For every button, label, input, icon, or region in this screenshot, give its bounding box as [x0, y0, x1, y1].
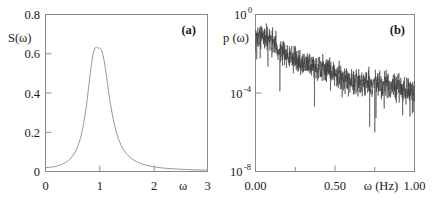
panel-a-xtick-3: 3 [204, 179, 210, 193]
panel-b-ytick-1: 10 -4 [230, 84, 252, 101]
panel-b-ytick-0-exponent: 0 [248, 5, 252, 15]
panel-a-ytick-4: 0.8 [24, 8, 40, 22]
two-panel-figure: 0 0.2 0.4 0.6 0.8 0 1 2 3 S(ω) ω (a) [0, 0, 442, 208]
panel-a-xtick-0: 0 [42, 179, 48, 193]
panel-a-label: (a) [181, 23, 196, 37]
panel-b-ytick-2: 10 -8 [230, 162, 251, 179]
panel-b-xtick-1: 0.50 [324, 179, 346, 193]
panel-b-ytick-0-mantissa: 10 [234, 8, 247, 22]
panel-b-curve [256, 24, 415, 133]
panel-a-curve [46, 47, 208, 170]
panel-a-y-ticks [46, 15, 52, 172]
panel-b-ytick-1-mantissa: 10 [230, 87, 243, 101]
panel-a-ytick-1: 0.2 [24, 126, 40, 140]
panel-a-frame [46, 15, 208, 172]
panel-b-ylabel: p (ω) [223, 31, 249, 45]
panel-a-xtick-2: 2 [151, 179, 157, 193]
panel-a-xtick-1: 1 [97, 179, 103, 193]
panel-a-plot: 0 0.2 0.4 0.6 0.8 0 1 2 3 S(ω) ω (a) [0, 0, 221, 208]
panel-b-plot: 10 0 10 -4 10 -8 0.00 0.50 1.00 p (ω) ω … [221, 0, 442, 208]
panel-b-xtick-0: 0.00 [245, 179, 267, 193]
panel-b-xlabel: ω (Hz) [364, 179, 398, 193]
panel-a-xlabel: ω [179, 179, 187, 193]
panel-b-ytick-2-mantissa: 10 [230, 165, 243, 179]
panel-b: 10 0 10 -4 10 -8 0.00 0.50 1.00 p (ω) ω … [221, 0, 442, 208]
panel-b-x-ticks [256, 166, 415, 172]
panel-a-ytick-2: 0.4 [24, 87, 40, 101]
panel-b-ytick-2-exponent: -8 [244, 162, 251, 172]
panel-b-ytick-0: 10 0 [234, 5, 252, 22]
panel-a-ytick-0: 0 [34, 165, 40, 179]
panel-b-xtick-2: 1.00 [404, 179, 426, 193]
panel-a-ylabel: S(ω) [8, 31, 32, 45]
panel-a-x-ticks [46, 166, 208, 172]
panel-b-label: (b) [390, 23, 405, 37]
panel-a: 0 0.2 0.4 0.6 0.8 0 1 2 3 S(ω) ω (a) [0, 0, 221, 208]
panel-a-ytick-3: 0.6 [24, 47, 40, 61]
panel-b-ytick-1-exponent: -4 [244, 84, 252, 94]
